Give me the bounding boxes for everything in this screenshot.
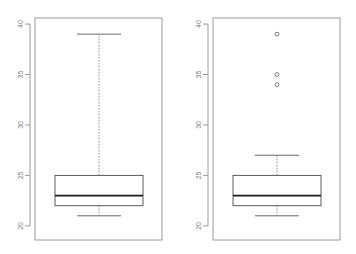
panel-left: 2025303540 — [0, 0, 178, 254]
y-tick-label: 25 — [18, 171, 25, 179]
outlier-point — [275, 83, 279, 87]
y-tick-label: 20 — [18, 222, 25, 230]
box-iqr — [55, 175, 143, 205]
outlier-point — [275, 73, 279, 77]
y-tick-label: 30 — [18, 121, 25, 129]
y-tick-label: 20 — [196, 222, 203, 230]
left-boxplot-canvas: 2025303540 — [0, 0, 178, 254]
y-tick-label: 35 — [196, 71, 203, 79]
boxplot-figure: 2025303540 2025303540 — [0, 0, 356, 254]
panel-right: 2025303540 — [178, 0, 356, 254]
y-tick-label: 25 — [196, 171, 203, 179]
y-tick-label: 40 — [17, 20, 24, 28]
box-iqr — [233, 175, 321, 205]
right-boxplot-canvas: 2025303540 — [178, 0, 356, 254]
outlier-point — [275, 32, 279, 36]
y-tick-label: 30 — [196, 121, 203, 129]
y-tick-label: 35 — [18, 71, 25, 79]
y-tick-label: 40 — [196, 20, 203, 28]
